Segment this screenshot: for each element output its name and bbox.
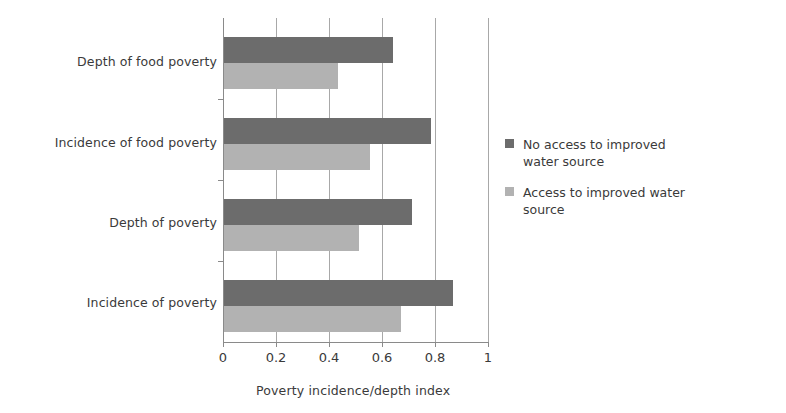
ytick-separator-1 bbox=[218, 99, 223, 100]
category-label-incidence-of-poverty: Incidence of poverty bbox=[0, 295, 217, 310]
xtick-label-1: 1 bbox=[484, 350, 492, 365]
xtick-0.6 bbox=[382, 342, 383, 347]
bar-incidence-of-poverty-no-access bbox=[224, 280, 453, 306]
plot-area bbox=[223, 18, 488, 342]
x-axis-title: Poverty incidence/depth index bbox=[256, 383, 450, 398]
xtick-label-0.2: 0.2 bbox=[266, 350, 287, 365]
bar-depth-of-poverty-no-access bbox=[224, 199, 412, 225]
legend-swatch-icon-no-access bbox=[505, 139, 514, 148]
ytick-separator-3 bbox=[218, 261, 223, 262]
category-label-depth-of-poverty: Depth of poverty bbox=[0, 215, 217, 230]
xtick-0.2 bbox=[276, 342, 277, 347]
bar-incidence-of-food-poverty-access bbox=[224, 144, 370, 170]
bar-depth-of-poverty-access bbox=[224, 225, 359, 251]
legend-item-access: Access to improved water source bbox=[505, 184, 780, 218]
category-axis-labels: Depth of food poverty Incidence of food … bbox=[0, 0, 217, 413]
x-axis-line bbox=[223, 342, 489, 343]
xtick-label-0.4: 0.4 bbox=[319, 350, 340, 365]
bar-depth-of-food-poverty-no-access bbox=[224, 37, 393, 63]
xtick-0 bbox=[223, 342, 224, 347]
chart-legend: No access to improved water source Acces… bbox=[505, 136, 780, 232]
xtick-0.4 bbox=[329, 342, 330, 347]
chart-figure: Depth of food poverty Incidence of food … bbox=[0, 0, 786, 413]
legend-label-access: Access to improved water source bbox=[523, 184, 698, 218]
xtick-label-0.6: 0.6 bbox=[372, 350, 393, 365]
bar-depth-of-food-poverty-access bbox=[224, 63, 338, 89]
category-label-depth-of-food-poverty: Depth of food poverty bbox=[0, 54, 217, 69]
legend-label-no-access: No access to improved water source bbox=[523, 136, 698, 170]
bar-incidence-of-poverty-access bbox=[224, 306, 401, 332]
xtick-label-0: 0 bbox=[219, 350, 227, 365]
xtick-1 bbox=[488, 342, 489, 347]
legend-swatch-icon-access bbox=[505, 187, 514, 196]
xtick-0.8 bbox=[435, 342, 436, 347]
category-label-incidence-of-food-poverty: Incidence of food poverty bbox=[0, 135, 217, 150]
gridline-1.0 bbox=[488, 18, 489, 342]
bar-incidence-of-food-poverty-no-access bbox=[224, 118, 431, 144]
xtick-label-0.8: 0.8 bbox=[425, 350, 446, 365]
legend-item-no-access: No access to improved water source bbox=[505, 136, 780, 170]
ytick-separator-2 bbox=[218, 180, 223, 181]
